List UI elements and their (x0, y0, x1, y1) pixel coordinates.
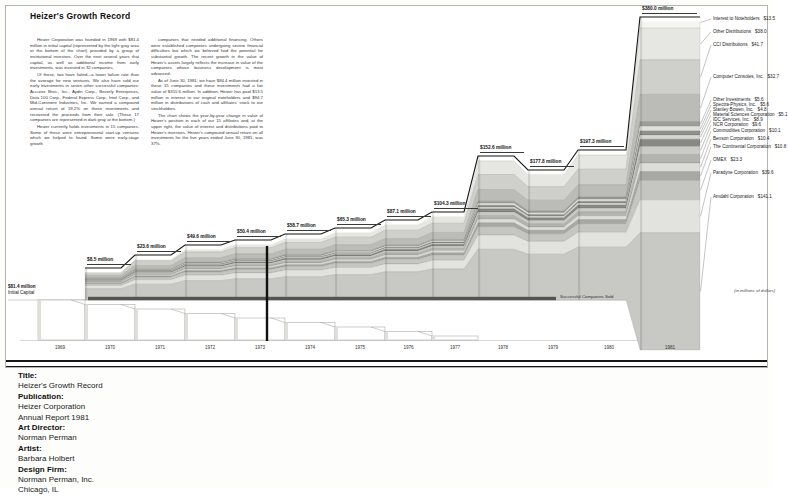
column-shade (385, 220, 387, 300)
legend-item-name: CCI Distributions (713, 42, 747, 47)
legend-item-amount: $5.1 (779, 112, 788, 117)
capital-block-face (335, 327, 338, 340)
column-shade (185, 245, 187, 300)
legend-leader (701, 131, 712, 159)
legend-item-name: Benson Corporation (713, 136, 754, 141)
legend-item-amount: $10.4 (758, 136, 770, 141)
milestone-label-1974: $58.7 million (287, 223, 331, 231)
column-shade (432, 212, 434, 300)
legend-item: Other Distributions$38.0 (713, 29, 767, 34)
legend-leader (701, 197, 712, 291)
capital-block-face (235, 318, 238, 340)
year-label: 1979 (548, 345, 559, 350)
column-shade (335, 228, 337, 300)
credit-value: Norman Perman (18, 433, 103, 443)
legend-item-amount: $39.6 (762, 170, 774, 175)
legend-item: Amdahl Corporation$141.1 (713, 194, 772, 199)
year-label: 1980 (604, 345, 615, 350)
milestone-label-1973: $50.4 million (237, 229, 281, 237)
legend-item-amount: $41.7 (751, 42, 763, 47)
year-label: 1971 (155, 345, 166, 350)
credit-value: Heizer Corporation (18, 402, 103, 412)
credit-label: Title: (18, 371, 103, 381)
credit-value: Heizer's Growth Record (18, 381, 103, 391)
legend-item-amount: $10.8 (775, 144, 787, 149)
legend-item: Commodities Corporation$10.1 (713, 128, 781, 133)
legend-leader (701, 45, 712, 77)
initial-capital-label: $81.4 million Initial Capital (8, 284, 36, 295)
legend-item-amount: $38.0 (755, 29, 767, 34)
initial-capital-caption: Initial Capital (8, 290, 36, 296)
capital-block (235, 318, 285, 340)
column-shade (235, 240, 237, 300)
milestone-label-1976: $87.1 million (387, 209, 431, 217)
credit-label: Design Firm: (18, 465, 103, 475)
credits-block: Title:Heizer's Growth RecordPublication:… (18, 371, 103, 496)
capital-block-face (285, 323, 288, 341)
column-shade (85, 268, 87, 300)
legend-item-name: OMEX (713, 157, 727, 162)
legend-item-name: Amdahl Corporation (713, 194, 754, 199)
legend-item: Benson Corporation$10.4 (713, 136, 769, 141)
legend-item-name: Other Distributions (713, 29, 751, 34)
year-label: 1970 (105, 345, 116, 350)
year-label: 1978 (498, 345, 509, 350)
legend-item: Interest to Noteholders$13.5 (713, 16, 775, 21)
legend-item: OMEX$23.3 (713, 157, 742, 162)
divider-rule (6, 360, 767, 367)
year-label: 1975 (355, 345, 366, 350)
column-shade (528, 170, 530, 300)
capital-block (285, 323, 335, 341)
legend-item: Computer Consoles, Inc.$32.7 (713, 74, 779, 79)
capital-block (85, 305, 135, 341)
column-shade (578, 150, 580, 300)
legend-item: The Continental Corporation$10.8 (713, 144, 786, 149)
legend-item-name: The Continental Corporation (713, 144, 771, 149)
legend-item: NCR Corporation$9.6 (713, 122, 761, 127)
year-label: 1973 (255, 345, 266, 350)
capital-block-face (135, 309, 138, 340)
milestone-label-1972: $49.6 million (187, 234, 231, 242)
legend-leader (701, 32, 712, 44)
milestone-label-1971: $23.6 million (137, 244, 181, 252)
credit-value: Annual Report 1981 (18, 413, 103, 423)
column-shade (135, 255, 137, 300)
milestone-label-1975: $65.3 million (337, 217, 381, 225)
credit-value: Chicago, IL (18, 485, 103, 495)
year-label: 1974 (305, 345, 316, 350)
legend-leader (701, 120, 712, 143)
capital-block-face (85, 305, 88, 341)
capital-block (185, 314, 235, 341)
legend-leader (701, 160, 712, 190)
initial-capital-amount: $81.4 million (8, 284, 36, 290)
legend-leader (701, 105, 712, 129)
year-label: 1969 (55, 345, 66, 350)
legend-item-amount: $32.7 (768, 74, 780, 79)
year-label: 1981 (665, 345, 676, 350)
capital-block-face (38, 300, 41, 340)
capital-block-face (432, 336, 435, 340)
legend-item-name: Paradyne Corporation (713, 170, 758, 175)
year-label: 1977 (450, 345, 461, 350)
legend-item-amount: $10.1 (769, 128, 781, 133)
legend-leader (701, 110, 712, 133)
milestone-label-1980: $197.3 million (580, 139, 624, 147)
capital-block (135, 309, 185, 340)
legend-item-amount: $13.5 (763, 16, 775, 21)
legend-item-amount: $141.1 (758, 194, 772, 199)
legend-leader (701, 115, 712, 137)
milestone-label-1970: $8.5 million (87, 257, 131, 265)
milestone-label-1981: $380.0 million (642, 6, 697, 14)
legend-leader (701, 139, 712, 167)
column-shade (640, 17, 642, 350)
legend-item-name: Interest to Noteholders (713, 16, 759, 21)
legend-item: Paradyne Corporation$39.6 (713, 170, 773, 175)
sold-companies-label: Successful Companies Sold (560, 294, 614, 299)
legend-item: CCI Distributions$41.7 (713, 42, 763, 47)
milestone-label-1978: $152.6 million (480, 145, 524, 153)
units-note: (in millions of dollars) (734, 288, 775, 293)
year-label: 1972 (205, 345, 216, 350)
legend-item-amount: $9.6 (752, 122, 761, 127)
sold-companies-band (88, 297, 556, 300)
capital-block (385, 332, 432, 341)
